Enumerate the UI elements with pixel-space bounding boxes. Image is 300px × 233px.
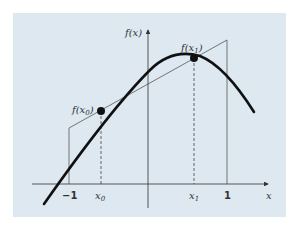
tick-label-one: 1 <box>224 190 231 201</box>
y-axis-label: f(x) <box>124 27 142 38</box>
x-axis-label: x <box>266 190 272 201</box>
function-curve <box>44 54 254 204</box>
tick-label-x0: x0 <box>95 190 106 203</box>
tick-label-x1: x1 <box>189 190 199 203</box>
point-fx0 <box>97 107 105 115</box>
point-fx1 <box>190 54 198 62</box>
gauss-quadrature-diagram: f(x) x f(x0) f(x1) −1 x0 x1 1 <box>0 0 300 233</box>
label-fx0: f(x0) <box>71 104 94 117</box>
tick-label-neg-one: −1 <box>62 190 77 201</box>
